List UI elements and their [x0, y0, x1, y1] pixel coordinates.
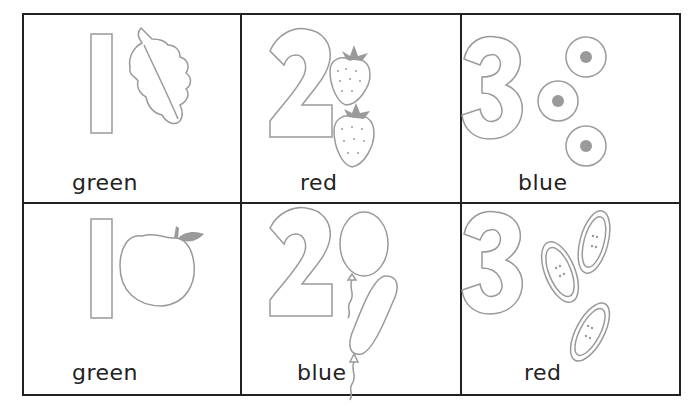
- color-word-label: red: [300, 170, 338, 195]
- cell-5-balloons: blue: [242, 204, 460, 396]
- cell-3-flowers: blue: [462, 15, 681, 202]
- strawberry-icon: [242, 15, 460, 202]
- cell-4-apple: green: [24, 204, 240, 396]
- color-word-label: red: [524, 360, 562, 385]
- balloon-icon: [242, 204, 460, 396]
- cell-1-leaf: green: [24, 15, 240, 202]
- button-icon: [462, 204, 681, 396]
- flower-icon: [462, 15, 681, 202]
- counting-worksheet-grid: green red: [22, 13, 681, 396]
- color-word-label: green: [72, 170, 138, 195]
- cell-6-buttons: red: [462, 204, 681, 396]
- color-word-label: blue: [297, 360, 347, 385]
- cell-2-strawberries: red: [242, 15, 460, 202]
- color-word-label: green: [72, 360, 138, 385]
- color-word-label: blue: [518, 170, 568, 195]
